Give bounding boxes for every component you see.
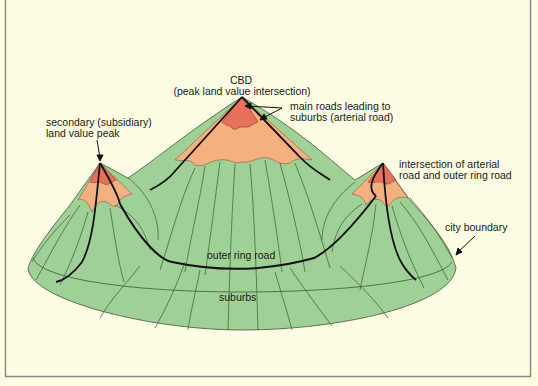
label-city-boundary: city boundary	[445, 222, 507, 234]
label-main-roads-2: suburbs (arterial road)	[290, 112, 393, 124]
label-outer-ring-road: outer ring road	[207, 250, 275, 262]
label-suburbs: suburbs	[219, 292, 256, 304]
land-value-surface	[0, 0, 538, 386]
label-secondary-2: land value peak	[46, 128, 120, 140]
label-intersection-2: road and outer ring road	[399, 170, 512, 182]
diagram-frame: CBD (peak land value intersection) main …	[0, 0, 538, 386]
label-cbd-subtitle: (peak land value intersection)	[152, 86, 332, 98]
